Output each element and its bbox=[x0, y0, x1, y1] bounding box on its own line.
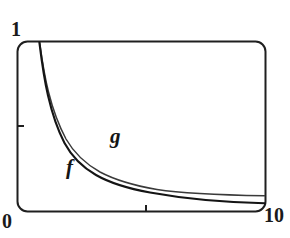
curve-f bbox=[39, 43, 264, 204]
curve-label-f: f bbox=[66, 157, 73, 178]
curve-g bbox=[40, 43, 265, 196]
y-axis-min-label: 0 bbox=[2, 211, 12, 231]
curve-label-g: g bbox=[110, 126, 121, 147]
figure-container: 1 0 10 f g bbox=[0, 0, 290, 238]
plot-canvas bbox=[0, 0, 290, 238]
y-axis-max-label: 1 bbox=[11, 19, 21, 39]
x-axis-max-label: 10 bbox=[264, 205, 284, 225]
